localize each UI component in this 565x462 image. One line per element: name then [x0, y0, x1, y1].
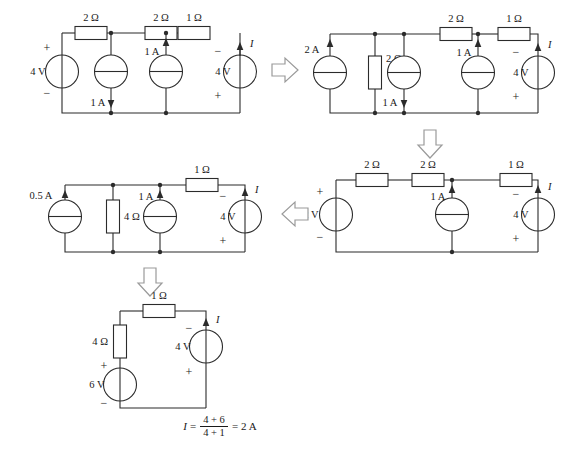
node-dot: [158, 183, 162, 187]
label-i-mid-right-c2: 1 A: [457, 47, 472, 58]
label-vright-value-c2: 4 V: [513, 67, 529, 78]
node-dot: [111, 183, 115, 187]
label-vright-value: 4 V: [215, 66, 231, 77]
resistor-1ohm-right: [178, 27, 210, 40]
label-vright-plus-c2: +: [513, 90, 520, 104]
label-vleft-value-c5: 6 V: [89, 379, 105, 390]
result-equation: I = 4 + 6 4 + 1 = 2 A: [120, 414, 320, 439]
circuit-1: 2 Ω 2 Ω 1 Ω + − 4 V 1 A 1 A − + 4: [30, 12, 256, 115]
label-r-top-left: 2 Ω: [83, 12, 99, 23]
arrow-current-down-1a-c2: [401, 100, 408, 108]
label-i-mid-left: 1 A: [91, 97, 106, 108]
node-dot: [109, 111, 113, 115]
label-r-shunt-4ohm-c4: 4 Ω: [124, 211, 140, 222]
label-vleft-minus-c3: −: [317, 230, 324, 244]
label-r-top-left-c3: 2 Ω: [364, 159, 380, 170]
label-vright-value-c4: 4 V: [220, 211, 236, 222]
label-r-top-mid: 2 Ω: [153, 12, 169, 23]
resistor-2ohm-mid-c2: [440, 28, 472, 41]
equation-equals: =: [190, 420, 196, 432]
arrow-current-up-1a-c4: [157, 190, 164, 198]
label-vright-plus: +: [215, 89, 222, 103]
label-vleft-plus: +: [44, 41, 51, 55]
label-vright-minus-c2: −: [513, 45, 520, 59]
equation-equals-2: =: [232, 420, 238, 432]
arrow-1-to-2: [272, 58, 298, 82]
label-i-mid-c4: 1 A: [139, 191, 154, 202]
label-r-top-right: 1 Ω: [186, 12, 202, 23]
equation-denominator: 4 + 1: [200, 426, 228, 439]
node-dot: [158, 250, 162, 254]
node-dot: [402, 111, 406, 115]
circuit-diagram-svg: 2 Ω 2 Ω 1 Ω + − 4 V 1 A 1 A − + 4: [0, 0, 565, 462]
label-i-mid-c3: 1 A: [431, 191, 446, 202]
arrow-2-to-3: [418, 130, 442, 158]
resistor-2ohm-shunt: [369, 56, 382, 89]
label-vleft-minus: −: [44, 86, 51, 100]
node-dot: [111, 250, 115, 254]
label-current-I-c5: I: [215, 314, 220, 325]
arrow-current-up-0p5a: [62, 190, 69, 198]
circuit-5: 1 Ω 4 Ω + − 6 V − + 4 V I: [89, 290, 222, 410]
node-dot: [373, 32, 377, 36]
resistor-2ohm-left-c3: [356, 174, 388, 187]
resistor-2ohm-mid: [145, 27, 177, 40]
label-vleft-plus-c3: +: [317, 185, 324, 199]
resistor-2ohm-left: [75, 27, 107, 40]
label-r-top-right-c3: 1 Ω: [508, 159, 524, 170]
circuit-4: 0.5 A 4 Ω 1 A 1 Ω − + 4 V I: [30, 164, 262, 254]
resistor-1ohm-c5: [143, 305, 175, 318]
arrow-current-I-c3: [535, 185, 542, 193]
label-r-top-right-c4: 1 Ω: [194, 164, 210, 175]
equation-lhs: I: [183, 420, 187, 432]
label-vright-plus-c5: +: [186, 365, 193, 379]
resistor-4ohm-c5: [114, 325, 127, 358]
arrow-current-I-c2: [535, 43, 542, 51]
label-i-left-2a: 2 A: [305, 44, 320, 55]
equation-result: 2 A: [241, 420, 257, 432]
resistor-1ohm-right-c2: [498, 28, 530, 41]
label-current-I-c2: I: [547, 39, 552, 50]
arrow-3-to-4: [282, 202, 308, 226]
label-r-top-right-c2: 1 Ω: [506, 13, 522, 24]
label-vright-minus-c5: −: [186, 321, 193, 335]
node-dot: [164, 111, 168, 115]
label-r-top-c5: 1 Ω: [151, 290, 167, 301]
arrow-current-I: [237, 42, 244, 50]
label-vleft-minus-c5: −: [101, 396, 108, 410]
equation-fraction: 4 + 6 4 + 1: [200, 414, 228, 439]
node-dot: [450, 178, 454, 182]
label-current-I: I: [249, 38, 254, 49]
label-r-left-c5: 4 Ω: [92, 336, 108, 347]
node-dot: [402, 32, 406, 36]
label-i-left-0p5a: 0.5 A: [30, 190, 53, 201]
node-dot: [109, 31, 113, 35]
label-current-I-c3: I: [547, 181, 552, 192]
label-vright-plus-c4: +: [220, 234, 227, 248]
arrow-current-up-1a-c3: [449, 185, 456, 193]
equation-numerator: 4 + 6: [200, 414, 228, 426]
label-r-top-mid-c2: 2 Ω: [448, 13, 464, 24]
label-r-top-mid-c3: 2 Ω: [420, 159, 436, 170]
circuit-2: 2 A 2 Ω 1 A 2 Ω 1 Ω 1 A −: [305, 13, 555, 115]
label-current-I-c4: I: [254, 184, 259, 195]
node-dot: [164, 31, 168, 35]
node-dot: [373, 111, 377, 115]
label-vright-minus-c4: −: [220, 189, 227, 203]
label-vright-value-c3: 4 V: [513, 209, 529, 220]
label-vright-value-c5: 4 V: [175, 341, 191, 352]
resistor-1ohm-right-c3: [500, 174, 532, 187]
node-dot: [476, 32, 480, 36]
resistor-4ohm-shunt-c4: [107, 200, 120, 233]
node-dot: [476, 111, 480, 115]
label-vright-plus-c3: +: [513, 232, 520, 246]
label-vright-minus-c3: −: [513, 187, 520, 201]
arrow-current-down-left: [108, 100, 115, 108]
arrow-current-up-2a: [327, 39, 334, 47]
circuit-3: 2 Ω 2 Ω 1 Ω + − 2 V 1 A − + 4 V I: [303, 159, 554, 254]
label-vleft-value: 4 V: [30, 66, 46, 77]
arrow-current-I-c4: [242, 188, 249, 196]
arrow-current-I-c5: [203, 318, 210, 326]
label-i-mid-left-c2: 1 A: [383, 97, 398, 108]
resistor-1ohm-c4: [186, 179, 218, 192]
